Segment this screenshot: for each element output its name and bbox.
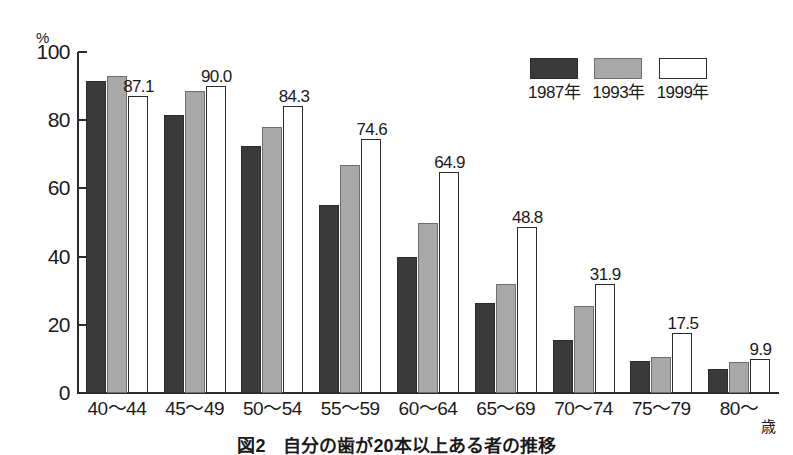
bar	[164, 115, 184, 393]
bar	[397, 257, 417, 393]
bar-value-label: 48.8	[512, 209, 543, 226]
bar-group: 64.9	[397, 52, 459, 393]
bar-group: 17.5	[630, 52, 692, 393]
legend: 1987年 1993年 1999年	[528, 58, 709, 101]
bar	[574, 306, 594, 393]
bar: 17.5	[672, 333, 692, 393]
bar-value-label: 64.9	[434, 154, 465, 171]
x-axis-category-label: 55〜59	[311, 399, 389, 419]
gray-swatch-icon	[594, 58, 642, 79]
x-axis-category-label: 80〜歳	[700, 399, 778, 435]
x-axis-category-label: 45〜49	[156, 399, 234, 419]
x-axis-category-label: 40〜44	[78, 399, 156, 419]
bar: 9.9	[750, 359, 770, 393]
figure-caption: 図2 自分の歯が20本以上ある者の推移	[0, 437, 793, 455]
bar-group: 84.3	[241, 52, 303, 393]
bar-group: 31.9	[553, 52, 615, 393]
bar-group: 87.1	[86, 52, 148, 393]
bar	[418, 223, 438, 394]
bar: 48.8	[517, 227, 537, 393]
x-axis-category-label: 65〜69	[467, 399, 545, 419]
bar: 64.9	[439, 172, 459, 393]
x-axis-category-label: 60〜64	[389, 399, 467, 419]
bar	[241, 146, 261, 393]
bar	[262, 127, 282, 393]
legend-item-label: 1987年	[528, 84, 580, 101]
bar-group: 48.8	[475, 52, 537, 393]
y-axis-tick-label: 40	[24, 246, 70, 267]
legend-item: 1993年	[592, 58, 644, 101]
y-axis-tick-label: 100	[24, 41, 70, 62]
bar: 84.3	[283, 106, 303, 393]
bar	[319, 205, 339, 393]
bar	[651, 357, 671, 393]
y-axis-tick-label: 20	[24, 314, 70, 335]
bar-value-label: 74.6	[356, 121, 387, 138]
bar	[107, 76, 127, 393]
bar: 90.0	[206, 86, 226, 393]
bar: 74.6	[361, 139, 381, 393]
bar	[340, 165, 360, 393]
bar	[496, 284, 516, 393]
bar: 87.1	[128, 96, 148, 393]
bar	[630, 361, 650, 393]
bar	[729, 362, 749, 393]
bar-value-label: 87.1	[123, 78, 154, 95]
x-axis-category-label: 75〜79	[622, 399, 700, 419]
bar: 31.9	[595, 284, 615, 393]
white-swatch-icon	[659, 58, 707, 79]
plot-area: 87.190.084.374.664.948.831.917.59.9	[78, 52, 778, 393]
bar	[708, 369, 728, 393]
dark-swatch-icon	[530, 58, 578, 79]
y-axis-tick-label: 60	[24, 177, 70, 198]
bar	[185, 91, 205, 393]
legend-item-label: 1993年	[592, 84, 644, 101]
x-axis-unit-label: 歳	[700, 419, 778, 435]
bar-value-label: 17.5	[668, 315, 699, 332]
bar-value-label: 9.9	[750, 341, 772, 358]
bar-group: 9.9	[708, 52, 770, 393]
bar-group: 90.0	[164, 52, 226, 393]
legend-item: 1999年	[657, 58, 709, 101]
bar	[553, 340, 573, 393]
bar-group: 74.6	[319, 52, 381, 393]
legend-item-label: 1999年	[657, 84, 709, 101]
bar	[475, 303, 495, 393]
x-axis-category-label: 70〜74	[545, 399, 623, 419]
bar-value-label: 31.9	[590, 266, 621, 283]
bar-value-label: 84.3	[279, 88, 310, 105]
bar	[86, 81, 106, 393]
x-axis-category-label: 50〜54	[234, 399, 312, 419]
legend-item: 1987年	[528, 58, 580, 101]
bar-value-label: 90.0	[201, 68, 232, 85]
y-axis-tick-label: 80	[24, 109, 70, 130]
y-axis-tick-label: 0	[24, 382, 70, 403]
